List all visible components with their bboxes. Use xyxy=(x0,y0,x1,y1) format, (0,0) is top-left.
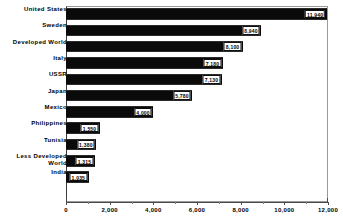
bar-row: Tunisia1,380 xyxy=(0,137,343,153)
category-label: Developed World xyxy=(0,39,67,46)
bar-track: 7,180 xyxy=(66,57,328,69)
bar xyxy=(66,41,243,53)
bar-value-label: 8,100 xyxy=(224,42,242,51)
x-axis-tick-label: 4,000 xyxy=(145,207,162,214)
bar-chart: United States11,940Sweden8,940Developed … xyxy=(0,0,343,222)
bar-track: 7,130 xyxy=(66,74,328,86)
category-label: USSR xyxy=(0,71,67,78)
bar xyxy=(66,25,261,37)
x-axis-minor-tick xyxy=(219,202,220,204)
x-axis-minor-tick xyxy=(306,202,307,204)
bar-value-label: 1,380 xyxy=(77,140,95,149)
bar-row: Philippines1,550 xyxy=(0,120,343,136)
category-label: Sweden xyxy=(0,22,67,29)
x-axis-tick xyxy=(153,202,154,205)
x-axis-tick xyxy=(328,202,329,205)
category-label: Japan xyxy=(0,88,67,95)
category-label: India xyxy=(0,169,67,176)
bar xyxy=(66,57,223,69)
bar-track: 11,940 xyxy=(66,8,328,20)
x-axis-minor-tick xyxy=(263,202,264,204)
category-label: Italy xyxy=(0,55,67,62)
category-label: Philippines xyxy=(0,120,67,127)
category-label: United States xyxy=(0,6,67,13)
bar-row: Sweden8,940 xyxy=(0,22,343,38)
x-axis-tick xyxy=(197,202,198,205)
bar-value-label: 1,315 xyxy=(76,157,94,166)
bar xyxy=(66,8,327,20)
bar-value-label: 11,940 xyxy=(305,10,325,19)
category-label: Tunisia xyxy=(0,137,67,144)
x-axis-tick-label: 12,000 xyxy=(318,207,338,214)
bar-row: Japan5,780 xyxy=(0,88,343,104)
x-axis-minor-tick xyxy=(88,202,89,204)
bar-track: 8,100 xyxy=(66,41,328,53)
x-axis-tick-label: 8,000 xyxy=(232,207,249,214)
bar-value-label: 1,550 xyxy=(81,124,99,133)
bar-track: 1,550 xyxy=(66,122,328,134)
bar-value-label: 7,180 xyxy=(204,59,222,68)
bar-value-label: 7,130 xyxy=(203,75,221,84)
bar-track: 1,315 xyxy=(66,155,328,167)
x-axis-minor-tick xyxy=(132,202,133,204)
bar-rows-container: United States11,940Sweden8,940Developed … xyxy=(0,6,343,202)
bar-track: 8,940 xyxy=(66,25,328,37)
bar xyxy=(66,74,222,86)
x-axis-minor-tick xyxy=(175,202,176,204)
x-axis-tick xyxy=(66,202,67,205)
x-axis-tick-label: 6,000 xyxy=(189,207,206,214)
bar-track: 4,000 xyxy=(66,106,328,118)
bar-row: Mexico4,000 xyxy=(0,104,343,120)
bar-value-label: 5,780 xyxy=(173,91,191,100)
bar-row: Developed World8,100 xyxy=(0,39,343,55)
category-label: Mexico xyxy=(0,104,67,111)
x-axis-tick-label: 10,000 xyxy=(274,207,294,214)
bar-row: Less Developed World1,315 xyxy=(0,153,343,169)
bar-value-label: 1,035 xyxy=(70,173,88,182)
bar-row: USSR7,130 xyxy=(0,71,343,87)
x-axis-tick xyxy=(110,202,111,205)
bar-track: 1,380 xyxy=(66,139,328,151)
x-axis-tick xyxy=(284,202,285,205)
x-axis: 02,0004,0006,0008,00010,00012,000 xyxy=(66,202,328,222)
bar-track: 1,035 xyxy=(66,171,328,183)
bar-track: 5,780 xyxy=(66,90,328,102)
bar-row: India1,035 xyxy=(0,169,343,185)
x-axis-tick-label: 2,000 xyxy=(101,207,118,214)
category-label: Less Developed World xyxy=(0,153,67,167)
x-axis-tick-label: 0 xyxy=(64,207,68,214)
bar-row: United States11,940 xyxy=(0,6,343,22)
x-axis-tick xyxy=(241,202,242,205)
bar-row: Italy7,180 xyxy=(0,55,343,71)
bar-value-label: 4,000 xyxy=(134,108,152,117)
bar-value-label: 8,940 xyxy=(242,26,260,35)
